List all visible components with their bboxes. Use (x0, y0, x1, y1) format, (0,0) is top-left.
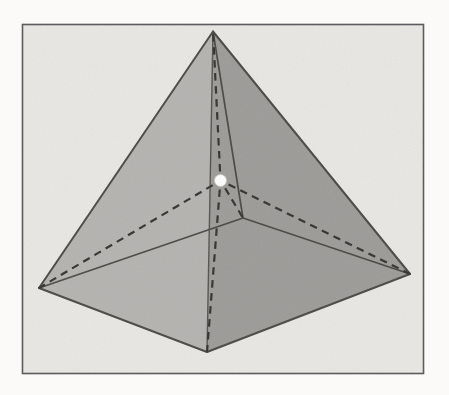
interior-point-marker (215, 175, 227, 187)
pyramid-drawing (23, 25, 424, 374)
pyramid-figure-svg (0, 0, 449, 395)
figure (0, 0, 449, 395)
